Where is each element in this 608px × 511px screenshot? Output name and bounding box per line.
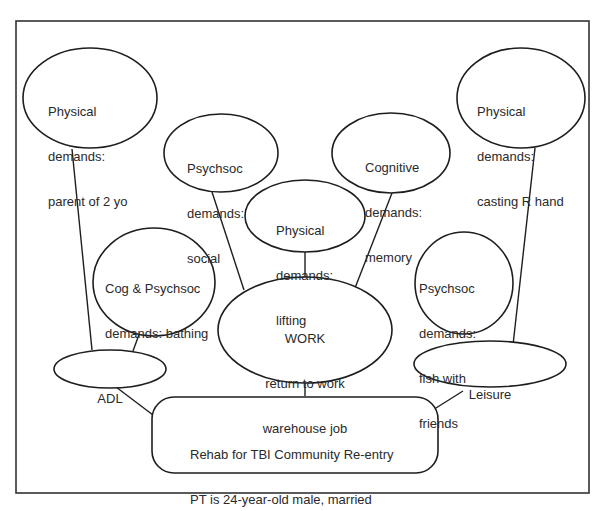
label-line: friends [419, 416, 476, 431]
label-line: demands: [187, 206, 244, 221]
label-line: Physical [477, 104, 564, 119]
label-casting-demands: Physical demands: casting R hand [477, 74, 564, 224]
label-line: Cog & Psychsoc [105, 281, 208, 296]
label-line: Psychsoc [419, 281, 476, 296]
label-bathing-demands: Cog & Psychsoc demands: bathing [105, 251, 208, 356]
label-line: Psychsoc [187, 161, 244, 176]
label-line: PT is 24-year-old male, married [190, 492, 394, 507]
label-central-rehab: Rehab for TBI Community Re-entry PT is 2… [190, 417, 394, 511]
label-line: Rehab for TBI Community Re-entry [190, 447, 394, 462]
label-leisure: Leisure [440, 357, 540, 417]
label-memory-demands: Cognitive demands: memory [365, 130, 422, 280]
label-line: demands: [365, 205, 422, 220]
label-line: parent of 2 yo [48, 194, 128, 209]
label-adl: ADL [70, 361, 150, 421]
label-line: Physical [276, 223, 333, 238]
label-line: demands: [48, 149, 128, 164]
label-line: Cognitive [365, 160, 422, 175]
label-line: memory [365, 250, 422, 265]
label-line: ADL [70, 391, 150, 406]
label-parent-demands: Physical demands: parent of 2 yo [48, 74, 128, 224]
label-line: demands: [419, 326, 476, 341]
label-line: WORK [225, 331, 385, 346]
label-line: Leisure [440, 387, 540, 402]
label-line: demands: [276, 268, 333, 283]
label-line: demands: [477, 149, 564, 164]
label-line: return to work [225, 376, 385, 391]
label-line: Physical [48, 104, 128, 119]
label-line: demands: bathing [105, 326, 208, 341]
label-line: casting R hand [477, 194, 564, 209]
